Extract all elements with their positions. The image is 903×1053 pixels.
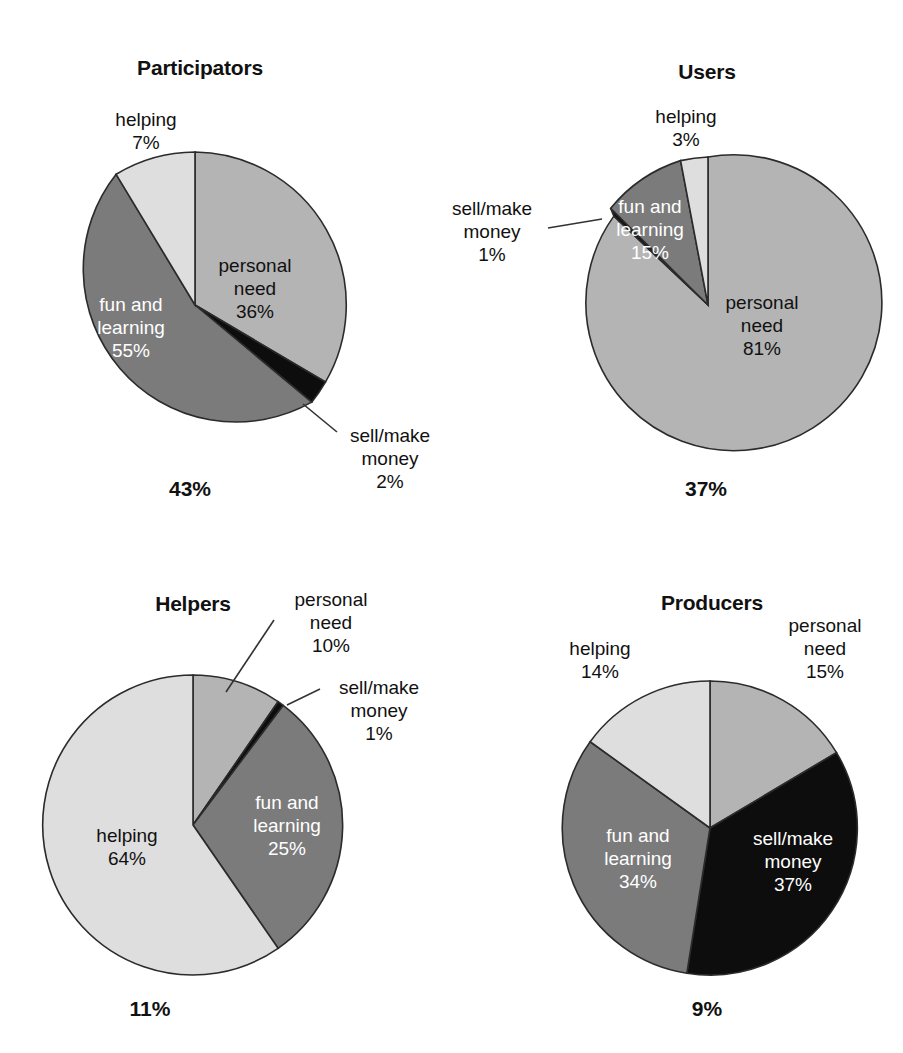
label-helping-producers: helping 14% xyxy=(569,637,630,683)
label-text-line1: personal xyxy=(789,615,862,636)
label-value: 34% xyxy=(619,871,657,892)
label-text-line1: fun and xyxy=(606,825,669,846)
label-text: helping xyxy=(569,638,630,659)
label-personal-need-producers: personal need 15% xyxy=(789,614,862,683)
label-fun-and-learning-producers: fun and learning 34% xyxy=(604,824,672,893)
label-sell-make-money-producers: sell/make money 37% xyxy=(753,827,833,896)
label-value: 15% xyxy=(806,661,844,682)
panel-total-producers: 9% xyxy=(692,997,722,1021)
label-text-line2: need xyxy=(804,638,846,659)
label-value: 37% xyxy=(774,874,812,895)
pie-chart-figure: Participators helping 7% personal need 3… xyxy=(0,0,903,1053)
label-value: 14% xyxy=(581,661,619,682)
label-text-line1: sell/make xyxy=(753,828,833,849)
label-text-line2: money xyxy=(764,851,821,872)
label-text-line2: learning xyxy=(604,848,672,869)
